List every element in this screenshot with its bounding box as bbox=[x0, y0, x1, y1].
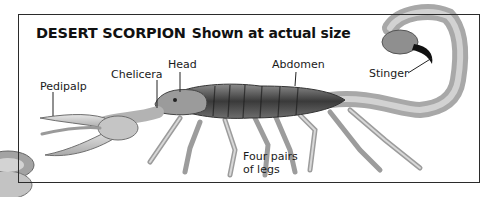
label-head: Head bbox=[168, 58, 197, 71]
label-pedipalp: Pedipalp bbox=[40, 80, 87, 93]
label-chelicera: Chelicera bbox=[111, 68, 163, 81]
label-stinger: Stinger bbox=[369, 67, 409, 80]
label-legs: Four pairs of legs bbox=[243, 150, 298, 176]
scorpion-diagram: DESERT SCORPIONShown at actual size Pedi… bbox=[0, 0, 501, 197]
figure-title: DESERT SCORPIONShown at actual size bbox=[36, 25, 351, 41]
label-abdomen: Abdomen bbox=[272, 58, 325, 71]
title-text: DESERT SCORPION bbox=[36, 25, 186, 41]
subtitle-text: Shown at actual size bbox=[192, 25, 351, 41]
